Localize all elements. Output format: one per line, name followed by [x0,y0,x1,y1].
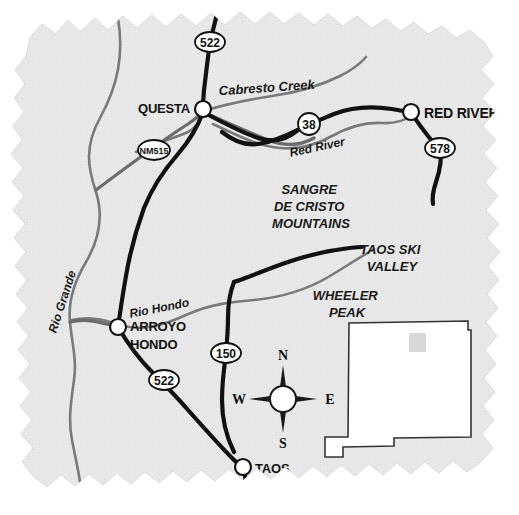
highway-shield-522-north[interactable]: 522 [195,32,225,52]
town-label-arroyo-hondo-line2: HONDO [130,337,177,352]
sangre-line-3: MOUNTAINS [272,216,350,231]
sangre-line-2: DE CRISTO [274,199,345,214]
highway-shield-nm515[interactable]: NM515 [138,140,170,160]
inset-location-highlight [409,333,426,352]
town-dot-questa[interactable] [195,101,211,117]
town-dot-red-river[interactable] [403,104,419,120]
highway-shield-150-label: 150 [216,347,236,361]
map-container: QUESTA RED RIVER ARROYO HONDO TAOS Cabre… [0,0,519,515]
town-label-taos: TAOS [255,461,290,476]
area-label-sangre-de-cristo: SANGRE DE CRISTO MOUNTAINS [272,182,350,231]
highway-shield-522-north-label: 522 [200,36,220,50]
town-label-questa: QUESTA [138,101,191,116]
ski-valley-line-2: VALLEY [367,259,419,274]
ski-valley-line-1: TAOS SKI [360,242,421,257]
highway-shield-578[interactable]: 578 [425,138,455,158]
map-illustration: QUESTA RED RIVER ARROYO HONDO TAOS Cabre… [0,0,519,515]
highway-shield-nm515-label: NM515 [139,146,168,156]
highway-shield-578-label: 578 [430,142,450,156]
sangre-line-1: SANGRE [281,182,337,197]
compass-label-west: W [232,392,246,407]
highway-shield-38-label: 38 [302,118,316,132]
compass-label-south: S [279,436,287,451]
compass-label-north: N [278,348,288,363]
town-label-arroyo-hondo-line1: ARROYO [130,319,186,334]
highway-shield-150[interactable]: 150 [211,343,241,363]
highway-shield-522-south-label: 522 [154,374,174,388]
highway-shield-522-south[interactable]: 522 [149,370,179,390]
compass-center-circle [270,386,296,412]
town-dot-arroyo-hondo[interactable] [110,319,126,335]
wheeler-line-2: PEAK [329,305,367,320]
town-dot-taos[interactable] [235,459,251,475]
town-label-red-river: RED RIVER [424,105,499,121]
highway-shield-38[interactable]: 38 [298,113,320,135]
compass-label-east: E [325,392,334,407]
wheeler-line-1: WHEELER [313,288,379,303]
